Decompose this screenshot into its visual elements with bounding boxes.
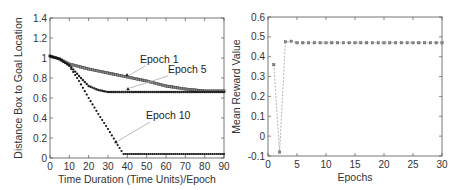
data-point [177,153,179,155]
data-point [182,153,184,155]
annotation-marker [126,87,130,90]
data-point [86,83,88,85]
annotation-label: Epoch 5 [168,63,207,75]
data-point [423,42,425,44]
data-point [72,68,74,70]
data-point [178,153,180,155]
annotation-label: Epoch 10 [146,109,191,121]
data-point [161,153,163,155]
data-point [140,153,142,155]
data-point [57,57,59,59]
data-point [371,42,373,44]
data-point [302,42,304,44]
left-chart-distance-to-goal: 010203040506070809000.20.40.60.811.21.4T… [12,13,230,186]
y-axis-label: Distance Box to Goal Location [12,17,24,158]
x-tick-label: 80 [199,161,211,172]
data-point [209,153,211,155]
y-tick-label: 0.5 [251,31,265,42]
data-point [142,153,144,155]
data-point [331,42,333,44]
data-point [66,64,68,66]
data-point [113,138,115,140]
right-chart-mean-reward: 051015202530-0.100.10.20.30.40.50.6Epoch… [230,12,448,184]
data-point [207,153,209,155]
y-axis-label: Mean Reward Value [230,39,242,134]
data-point [211,153,213,155]
data-point [190,153,192,155]
data-point [95,110,97,112]
data-point [219,153,221,155]
data-point [313,42,315,44]
data-point [84,81,86,83]
plot-frame [268,17,442,156]
x-tick-label: 40 [122,161,134,172]
data-point [202,153,204,155]
data-point [90,100,92,102]
x-tick-label: 25 [407,159,419,170]
data-point [151,153,153,155]
data-point [149,153,151,155]
y-tick-label: 0.2 [251,91,265,102]
data-point [192,153,194,155]
annotation-leader-line [118,122,150,141]
x-tick-label: 90 [218,161,230,172]
x-tick-label: 10 [320,159,332,170]
x-axis-label: Epochs [337,171,372,183]
data-point [171,153,173,155]
mean-reward-markers [273,40,444,153]
data-point [163,153,165,155]
y-tick-label: 0 [41,153,47,164]
data-point [429,42,431,44]
data-point [175,153,177,155]
data-point [336,42,338,44]
data-point [107,128,109,130]
data-point [167,153,169,155]
annotation-marker [125,73,129,76]
data-point [406,42,408,44]
data-point [198,153,200,155]
y-tick-label: 0.6 [251,12,265,23]
data-point [146,153,148,155]
data-point [86,94,88,96]
data-point [319,42,321,44]
data-point [180,153,182,155]
x-axis-label: Time Duration (Time Units)/Epoch [58,173,216,185]
data-point [111,134,113,136]
data-point [284,41,286,43]
data-point [64,62,66,64]
data-point [76,77,78,79]
y-tick-label: 0.1 [251,111,265,122]
data-point [51,56,53,58]
y-tick-label: 1 [41,53,47,64]
data-point [215,153,217,155]
data-point [278,151,280,153]
data-point [213,153,215,155]
data-point [80,77,82,79]
data-point [435,42,437,44]
data-point [72,71,74,73]
data-point [204,153,206,155]
data-point [148,153,150,155]
data-point [68,65,70,67]
data-point [221,153,223,155]
data-point [394,42,396,44]
data-point [80,83,82,85]
y-tick-label: 0.6 [33,93,47,104]
data-point [134,153,136,155]
data-point [82,79,84,81]
figure: 010203040506070809000.20.40.60.811.21.4T… [0,0,463,190]
x-tick-label: 0 [265,159,271,170]
data-point [365,42,367,44]
data-point [296,42,298,44]
x-tick-label: 0 [47,161,53,172]
x-tick-label: 30 [102,161,114,172]
y-tick-label: 1.2 [33,33,47,44]
data-point [88,97,90,99]
data-point [206,153,208,155]
data-point [165,153,167,155]
data-point [223,153,225,155]
x-tick-label: 10 [64,161,76,172]
data-point [105,125,107,127]
x-tick-label: 30 [436,159,448,170]
data-point [61,59,63,61]
